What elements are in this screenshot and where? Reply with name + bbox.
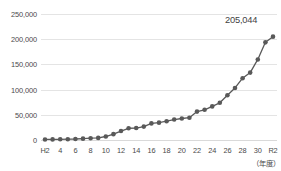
x-axis-tick-label: 8 — [89, 146, 93, 155]
x-axis-tick-label: 12 — [117, 146, 125, 155]
x-axis-tick-label: 4 — [58, 146, 62, 155]
x-axis-tick-label: 10 — [102, 146, 110, 155]
data-point-marker — [81, 136, 86, 141]
data-point-marker — [248, 70, 253, 75]
x-axis-tick-label: 22 — [193, 146, 201, 155]
data-point-marker — [142, 124, 147, 129]
plot-area — [41, 14, 277, 140]
x-axis-tick-label: 14 — [132, 146, 140, 155]
x-axis-tick-label: 18 — [163, 146, 171, 155]
y-axis-tick-label: 200,000 — [11, 35, 37, 44]
data-point-label: 205,044 — [225, 15, 257, 25]
x-axis-tick-label: R2 — [268, 146, 277, 155]
data-point-marker — [240, 76, 245, 81]
data-point-marker — [172, 117, 177, 122]
data-point-marker — [134, 126, 139, 131]
data-point-marker — [58, 137, 63, 142]
data-point-marker — [195, 109, 200, 114]
data-point-marker — [157, 120, 162, 125]
data-point-marker — [271, 34, 276, 39]
data-point-marker — [164, 119, 169, 124]
data-point-marker — [149, 121, 154, 126]
data-point-marker — [73, 137, 78, 142]
data-point-marker — [88, 136, 93, 141]
data-point-marker — [126, 126, 131, 131]
x-axis-tick-label: 28 — [239, 146, 247, 155]
data-point-marker — [119, 129, 124, 134]
y-axis-tick-label: 50,000 — [15, 110, 37, 119]
data-point-marker — [187, 115, 192, 120]
y-axis-tick-label: 150,000 — [11, 60, 37, 69]
data-point-marker — [111, 132, 116, 137]
x-axis-tick-label: H2 — [40, 146, 49, 155]
chart-container: 050,000100,000150,000200,000250,000 H246… — [0, 0, 281, 171]
data-point-marker — [50, 137, 55, 142]
data-point-marker — [210, 104, 215, 109]
data-point-marker — [256, 57, 261, 62]
data-point-marker — [233, 86, 238, 91]
data-point-marker — [66, 137, 71, 142]
y-axis-tick-label: 250,000 — [11, 10, 37, 19]
data-point-marker — [104, 134, 109, 139]
x-axis-tick-label: 30 — [254, 146, 262, 155]
line-series — [41, 14, 277, 140]
x-axis-unit-label: （年度） — [252, 157, 280, 168]
data-point-marker — [202, 108, 207, 113]
data-point-marker — [96, 136, 101, 141]
x-axis-tick-label: 20 — [178, 146, 186, 155]
x-axis-tick-label: 24 — [208, 146, 216, 155]
data-point-marker — [225, 93, 230, 98]
y-axis-tick-label: 100,000 — [11, 85, 37, 94]
data-point-marker — [43, 137, 48, 142]
y-axis-tick-label: 0 — [33, 136, 37, 145]
x-axis-tick-label: 26 — [223, 146, 231, 155]
x-axis-tick-label: 6 — [73, 146, 77, 155]
x-axis-tick-label: 16 — [147, 146, 155, 155]
data-point-marker — [180, 116, 185, 121]
data-point-marker — [218, 101, 223, 106]
data-point-marker — [263, 40, 268, 45]
